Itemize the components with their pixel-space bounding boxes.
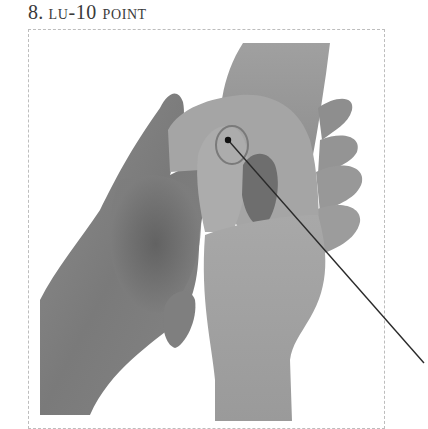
holding-hand [204, 215, 326, 421]
right-fingers [318, 99, 352, 140]
